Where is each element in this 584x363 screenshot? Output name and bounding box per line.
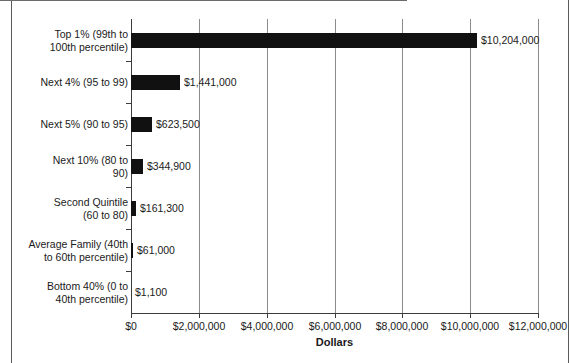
category-label-line: to 60th percentile) — [4, 251, 128, 264]
bar-value-label: $1,100 — [135, 287, 167, 298]
category-label: Second Quintile(60 to 80) — [4, 196, 128, 221]
plot-top-frame — [0, 0, 407, 1]
category-label: Top 1% (99th to100th percentile) — [4, 28, 128, 53]
bar — [131, 33, 477, 48]
category-label-line: Next 5% (90 to 95) — [4, 118, 128, 131]
category-label: Average Family (40thto 60th percentile) — [4, 238, 128, 263]
x-tick-label: $0 — [125, 320, 137, 332]
bar — [131, 117, 152, 132]
x-tick-label: $12,000,000 — [509, 320, 567, 332]
category-label-line: Next 4% (95 to 99) — [4, 76, 128, 89]
x-axis-title: Dollars — [131, 336, 538, 348]
category-label-line: 90) — [4, 167, 128, 180]
bar-value-label: $161,300 — [140, 203, 184, 214]
category-label-line: (60 to 80) — [4, 209, 128, 222]
category-label-line: 40th percentile) — [4, 293, 128, 306]
x-tick-label: $4,000,000 — [241, 320, 294, 332]
x-axis-line — [131, 313, 539, 314]
y-axis-tick — [126, 271, 131, 272]
y-axis-tick — [126, 61, 131, 62]
category-label: Next 4% (95 to 99) — [4, 76, 128, 89]
gridline — [335, 19, 336, 313]
bar — [131, 159, 143, 174]
x-tick-label: $6,000,000 — [309, 320, 362, 332]
bar-value-label: $1,441,000 — [184, 77, 237, 88]
page-border-right — [568, 0, 569, 363]
gridline — [199, 19, 200, 313]
gridline — [538, 19, 539, 313]
x-tick-label: $10,000,000 — [441, 320, 499, 332]
page-border-left — [11, 0, 12, 363]
category-label: Next 5% (90 to 95) — [4, 118, 128, 131]
category-label-line: Bottom 40% (0 to — [4, 280, 128, 293]
y-axis-tick — [126, 229, 131, 230]
bar-value-label: $61,000 — [137, 245, 175, 256]
bar-value-label: $344,900 — [147, 161, 191, 172]
bar-value-label: $623,500 — [156, 119, 200, 130]
bar — [131, 243, 133, 258]
category-label-line: Top 1% (99th to — [4, 28, 128, 41]
x-tick-label: $8,000,000 — [376, 320, 429, 332]
category-label-line: Second Quintile — [4, 196, 128, 209]
y-axis-tick — [126, 145, 131, 146]
bar — [131, 201, 136, 216]
gridline — [267, 19, 268, 313]
gridline — [470, 19, 471, 313]
x-tick-label: $2,000,000 — [173, 320, 226, 332]
category-label-line: Next 10% (80 to — [4, 154, 128, 167]
category-label-line: Average Family (40th — [4, 238, 128, 251]
category-label: Next 10% (80 to90) — [4, 154, 128, 179]
y-axis-tick — [126, 103, 131, 104]
chart-page: $10,204,000$1,441,000$623,500$344,900$16… — [0, 0, 584, 363]
bar-value-label: $10,204,000 — [481, 35, 539, 46]
gridline — [402, 19, 403, 313]
y-axis-tick — [126, 187, 131, 188]
category-label-line: 100th percentile) — [4, 41, 128, 54]
bar — [131, 75, 180, 90]
category-label: Bottom 40% (0 to40th percentile) — [4, 280, 128, 305]
